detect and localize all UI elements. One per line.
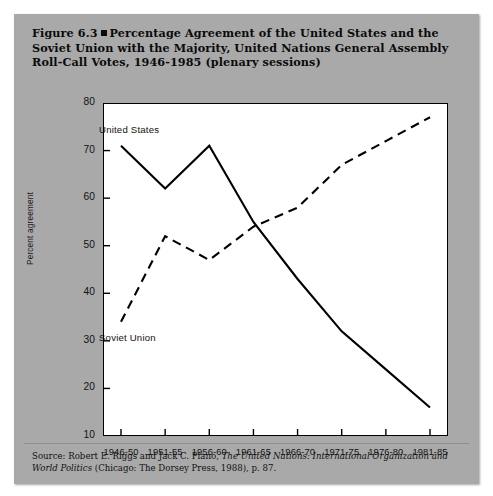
source-prefix: Source: Robert E. Riggs and Jack C. Plan… [32, 451, 219, 461]
figure-title-line-2: Soviet Union with the Majority, United N… [32, 41, 448, 55]
figure-number: Figure 6.3 [32, 26, 98, 40]
square-bullet-icon [101, 30, 107, 36]
y-axis-tick-label: 40 [67, 286, 95, 297]
y-axis-tick-label: 60 [67, 191, 95, 202]
chart: Percent agreement 10203040506070801946-5… [14, 74, 479, 444]
figure-title: Figure 6.3Percentage Agreement of the Un… [32, 26, 456, 70]
series-line-united-states [121, 146, 430, 408]
source-suffix: (Chicago: The Dorsey Press, 1988), p. 87… [95, 463, 276, 473]
figure-title-line-3: Roll-Call Votes, 1946-1985 (plenary sess… [32, 55, 321, 69]
series-label-united-states: United States [99, 124, 159, 135]
y-axis-tick-label: 70 [67, 144, 95, 155]
figure-panel: Figure 6.3Percentage Agreement of the Un… [14, 14, 479, 484]
series-label-soviet-union: Soviet Union [99, 332, 156, 343]
divider [24, 443, 469, 444]
y-axis-tick-label: 80 [67, 96, 95, 107]
y-axis-tick-label: 20 [67, 381, 95, 392]
y-axis-tick-label: 10 [67, 429, 95, 440]
y-axis-tick-label: 50 [67, 239, 95, 250]
figure-title-line-1: Percentage Agreement of the United State… [110, 26, 439, 40]
source-note: Source: Robert E. Riggs and Jack C. Plan… [32, 451, 454, 474]
y-axis-tick-label: 30 [67, 334, 95, 345]
series-line-soviet-union [121, 117, 430, 322]
